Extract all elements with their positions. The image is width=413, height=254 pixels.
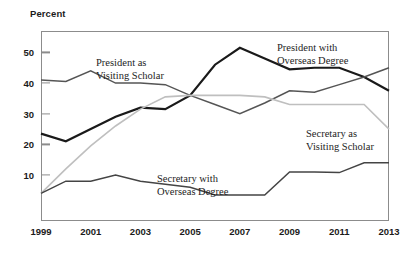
series-lines [0,0,413,254]
line-chart: Percent 1020304050 199920012003200520072… [0,0,413,254]
series-line [41,68,389,114]
annotation-president-as-visiting-scholar: President as Visiting Scholar [96,57,164,82]
annotation-secretary-as-visiting-scholar: Secretary as Visiting Scholar [306,128,374,153]
annotation-secretary-with-overseas-degree: Secretary with Overseas Degree [157,173,228,198]
annotation-president-with-overseas-degree: President with Overseas Degree [277,42,348,67]
